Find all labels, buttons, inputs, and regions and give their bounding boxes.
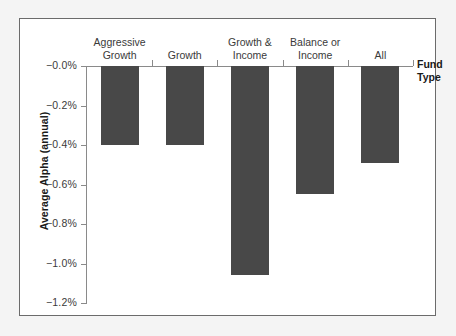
y-axis-tick-label: −0.6% [46,178,77,191]
bar [231,66,269,275]
y-axis-tick-label: −0.4% [46,138,77,151]
bar [166,66,204,145]
y-axis-tick: −0.2% [81,106,87,107]
y-axis-tick: −0.8% [81,224,87,225]
x-axis-tick [413,60,414,66]
category-label: Aggressive Growth [87,36,152,61]
y-axis-tick: −1.2% [81,303,87,304]
y-axis-tick: −0.0% [81,66,87,67]
bar [296,66,334,194]
y-axis-tick-label: −0.0% [46,59,77,72]
plot-area: Average Alpha (annual) Fund Type −0.0%−0… [20,19,435,315]
category-label: Growth & Income [217,36,282,61]
y-axis-tick-label: −1.0% [46,257,77,270]
y-axis-tick-label: −1.2% [46,296,77,309]
chart-panel: Average Alpha (annual) Fund Type −0.0%−0… [19,18,436,316]
category-label: All [348,49,413,62]
x-axis-title: Fund Type [417,58,443,83]
y-axis-tick-label: −0.8% [46,217,77,230]
y-axis-tick: −1.0% [81,264,87,265]
chart-page: Average Alpha (annual) Fund Type −0.0%−0… [0,0,456,336]
bar [361,66,399,163]
y-axis-tick: −0.6% [81,185,87,186]
category-label: Growth [152,49,217,62]
category-label: Balance or Income [283,36,348,61]
y-axis-tick-label: −0.2% [46,99,77,112]
bar [101,66,139,145]
y-axis-tick: −0.4% [81,145,87,146]
